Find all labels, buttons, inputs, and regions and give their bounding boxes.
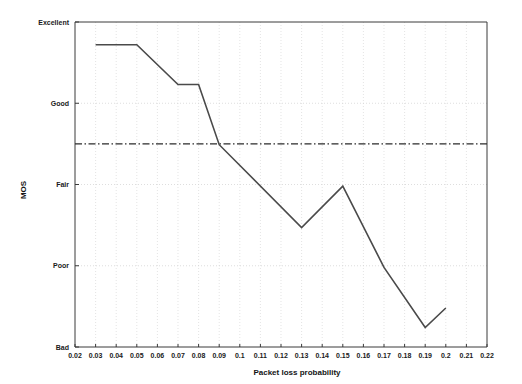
- x-tick-label: 0.09: [212, 352, 226, 359]
- x-tick-label: 0.04: [109, 352, 123, 359]
- x-axis-ticks: [75, 344, 487, 347]
- y-tick-label: Fair: [56, 181, 69, 188]
- x-tick-label: 0.14: [315, 352, 329, 359]
- x-tick-label: 0.08: [192, 352, 206, 359]
- x-tick-label: 0.2: [441, 352, 451, 359]
- x-tick-label: 0.16: [357, 352, 371, 359]
- x-tick-label: 0.07: [171, 352, 185, 359]
- y-tick-label: Excellent: [38, 19, 69, 26]
- y-axis-title: MOS: [19, 180, 28, 199]
- x-tick-label: 0.19: [418, 352, 432, 359]
- y-tick-label: Poor: [53, 262, 69, 269]
- x-tick-label: 0.18: [398, 352, 412, 359]
- x-tick-label: 0.06: [151, 352, 165, 359]
- x-tick-label: 0.02: [68, 352, 82, 359]
- x-tick-label: 0.21: [460, 352, 474, 359]
- x-tick-label: 0.03: [89, 352, 103, 359]
- y-tick-label: Good: [51, 100, 69, 107]
- x-tick-label: 0.22: [480, 352, 494, 359]
- y-tick-label: Bad: [56, 344, 69, 351]
- x-tick-label: 0.13: [295, 352, 309, 359]
- x-tick-label: 0.05: [130, 352, 144, 359]
- y-axis-tick-labels: ExcellentGoodFairPoorBad: [38, 19, 69, 351]
- x-tick-label: 0.11: [254, 352, 267, 359]
- x-axis-tick-labels: 0.020.030.040.050.060.070.080.090.10.110…: [68, 352, 494, 359]
- x-tick-label: 0.12: [274, 352, 288, 359]
- x-tick-label: 0.15: [336, 352, 350, 359]
- mos-vs-packet-loss-chart: 0.020.030.040.050.060.070.080.090.10.110…: [0, 0, 522, 384]
- x-tick-label: 0.17: [377, 352, 391, 359]
- x-axis-title: Packet loss probability: [253, 368, 341, 377]
- x-tick-label: 0.1: [235, 352, 245, 359]
- chart-figure: 0.020.030.040.050.060.070.080.090.10.110…: [0, 0, 522, 384]
